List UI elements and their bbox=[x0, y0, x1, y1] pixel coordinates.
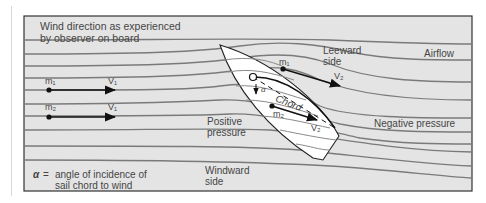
positive-pressure-label-2: pressure bbox=[207, 127, 246, 138]
velocity-label-v2: V₂ bbox=[334, 71, 344, 81]
leeward-label-1: Leeward bbox=[323, 45, 361, 56]
velocity-label-v2b: V₂ bbox=[311, 123, 321, 133]
legend-alpha: α bbox=[33, 169, 40, 180]
sail-airflow-diagram: Wind direction as experienced by observe… bbox=[0, 0, 486, 203]
particle-label-m1: m₁ bbox=[45, 76, 56, 86]
particle-m2-boat bbox=[269, 103, 274, 108]
alpha-symbol: α bbox=[261, 85, 266, 94]
legend-line-2: sail chord to wind bbox=[55, 180, 132, 191]
particle-m1-leeward bbox=[280, 66, 285, 71]
positive-pressure-label-1: Positive bbox=[207, 116, 242, 127]
legend-line-1: angle of incidence of bbox=[55, 169, 147, 180]
title-line-1: Wind direction as experienced bbox=[40, 20, 181, 32]
particle-m2 bbox=[46, 114, 51, 119]
particle-m1 bbox=[46, 87, 51, 92]
airflow-label: Airflow bbox=[424, 48, 455, 59]
windward-label-2: side bbox=[205, 176, 224, 187]
negative-pressure-label: Negative pressure bbox=[374, 118, 456, 129]
legend-equals: = bbox=[43, 169, 49, 180]
velocity-label-v1: V₁ bbox=[108, 76, 117, 86]
particle-label-m2-boat: m₂ bbox=[273, 109, 284, 119]
particle-label-m2: m₂ bbox=[45, 102, 56, 112]
mast-icon bbox=[250, 74, 257, 81]
leeward-label-2: side bbox=[323, 56, 342, 67]
particle-label-m1-leeward: m₁ bbox=[279, 57, 290, 67]
windward-label-1: Windward bbox=[205, 165, 249, 176]
title-line-2: by observer on board bbox=[40, 32, 139, 44]
velocity-label-v1b: V₁ bbox=[108, 102, 117, 112]
